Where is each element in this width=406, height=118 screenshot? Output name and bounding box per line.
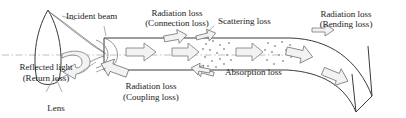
- label-incident-beam: Incident beam: [66, 11, 117, 22]
- propagation-arrow-4: [284, 42, 314, 66]
- label-lens: Lens: [34, 103, 78, 114]
- label-radiation-loss-coupling-1: Radiation loss: [104, 81, 198, 92]
- propagation-arrow-3: [236, 43, 263, 61]
- fiber-loss-diagram: .st{fill:none;stroke:#3a3a3a;stroke-widt…: [0, 0, 406, 118]
- label-radiation-loss-coupling-2: (Coupling loss): [104, 92, 198, 103]
- label-reflected-light-2: (Return loss): [4, 73, 88, 84]
- label-radiation-loss-bending-2: (Bending loss): [300, 19, 392, 30]
- label-radiation-loss-connection-2: (Connection loss): [128, 18, 226, 29]
- connection-loss-arrow: [163, 28, 188, 46]
- label-radiation-loss-connection-1: Radiation loss: [131, 8, 223, 19]
- scatter-cluster-1: [202, 40, 232, 68]
- label-radiation-loss-bending-1: Radiation loss: [300, 9, 392, 20]
- propagation-arrow-1: [126, 43, 156, 61]
- label-scattering-loss: Scattering loss: [218, 16, 271, 27]
- label-absorption-loss: Absorption loss: [225, 67, 282, 78]
- propagation-arrow-2: [172, 43, 199, 61]
- coupling-loss-arrow: [98, 55, 130, 81]
- label-reflected-light-1: Reflected light: [4, 62, 88, 73]
